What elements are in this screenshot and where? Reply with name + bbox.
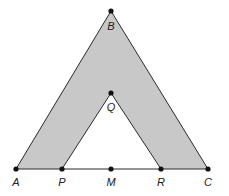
geometry-diagram: APMRCBQ — [0, 0, 229, 196]
point-m — [108, 166, 113, 171]
label-m: M — [106, 176, 116, 188]
label-b: B — [107, 20, 114, 32]
point-a — [13, 166, 18, 171]
label-p: P — [58, 176, 66, 188]
point-p — [59, 166, 64, 171]
shaded-region — [16, 11, 208, 169]
label-c: C — [204, 176, 212, 188]
label-a: A — [11, 176, 19, 188]
point-b — [108, 8, 113, 13]
point-c — [205, 166, 210, 171]
point-r — [158, 166, 163, 171]
point-q — [108, 90, 113, 95]
label-q: Q — [107, 101, 116, 113]
label-r: R — [157, 176, 165, 188]
